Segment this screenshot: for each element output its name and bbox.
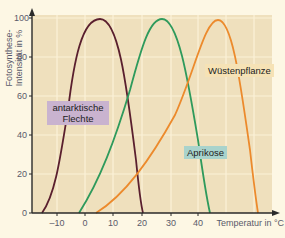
svg-text:Intensität in %: Intensität in % [14, 30, 24, 87]
x-tick-20: 20 [137, 218, 147, 228]
label-antarktische-flechte: antarktische Flechte [47, 101, 109, 125]
x-axis-label: Temperatur in °C [216, 218, 284, 228]
label-flechte-line1: antarktische [50, 102, 106, 113]
svg-text:Fotosynthese-: Fotosynthese- [4, 29, 14, 86]
photosynthesis-chart: 0 20 40 60 80 100 –10 0 10 20 30 40 Temp… [0, 0, 285, 238]
x-tick-labels: –10 0 10 20 30 40 [49, 218, 203, 228]
y-axis-label: Fotosynthese- Intensität in % [4, 29, 24, 86]
x-tick-30: 30 [166, 218, 176, 228]
label-wuestenpflanze: Wüstenpflanze [205, 64, 274, 77]
y-tick-60: 60 [17, 91, 27, 101]
y-tick-20: 20 [17, 169, 27, 179]
y-tick-40: 40 [17, 130, 27, 140]
x-axis-arrow-icon [272, 210, 280, 216]
x-tick-40: 40 [193, 218, 203, 228]
label-flechte-line2: Flechte [50, 113, 106, 124]
label-aprikose: Aprikose [184, 146, 227, 159]
x-tick-10: 10 [108, 218, 118, 228]
y-tick-0: 0 [22, 208, 27, 218]
y-axis-arrow-icon [29, 8, 35, 16]
x-tick-0: 0 [82, 218, 87, 228]
y-tick-100: 100 [14, 13, 29, 23]
x-tick-minus10: –10 [49, 218, 64, 228]
